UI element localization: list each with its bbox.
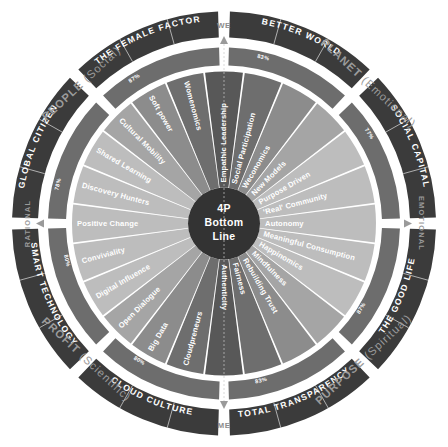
- axis-label-bottom: ME: [217, 421, 230, 430]
- quadrant-name: PEOPLE (Social): [40, 44, 123, 123]
- arrow-down-icon: [220, 401, 228, 409]
- arrow-up-icon: [220, 36, 228, 44]
- axis-label-left: RATIONAL: [23, 200, 32, 247]
- spoke-label: Empathic Leadership: [219, 103, 228, 183]
- spoke-label: Authenticity: [220, 265, 229, 311]
- quadrant-label-planet: PLANET (Emotional): [319, 36, 419, 130]
- quadrant-label-people: PEOPLE (Social): [40, 44, 123, 123]
- axis-label-top: WE: [217, 21, 231, 30]
- arrow-left-icon: [36, 220, 44, 228]
- quadrant-name: PLANET (Emotional): [319, 36, 419, 130]
- spoke-label: Autonomy: [265, 219, 304, 228]
- arrow-right-icon: [404, 220, 412, 228]
- radial-wheel-diagram: BETTER WORLDSOCIAL CAPITALTHE GOOD LIFET…: [0, 0, 448, 447]
- diagram-canvas: BETTER WORLDSOCIAL CAPITALTHE GOOD LIFET…: [0, 0, 448, 447]
- spoke-label: Positive Change: [77, 219, 138, 228]
- axis-label-right: EMOTIONAL: [417, 196, 426, 251]
